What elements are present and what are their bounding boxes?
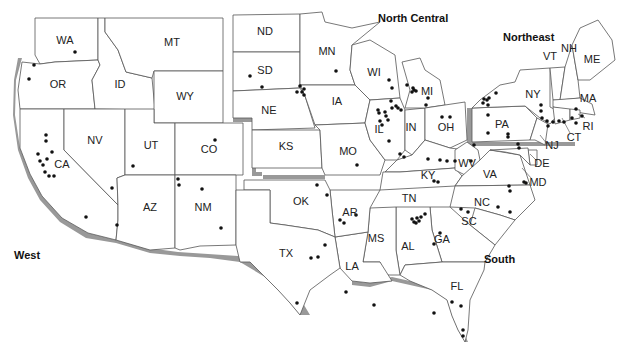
site-dot xyxy=(50,150,54,154)
site-dot xyxy=(423,212,427,216)
state-label-nc: NC xyxy=(474,196,490,208)
state-mi xyxy=(402,58,445,108)
site-dot xyxy=(295,90,299,94)
site-dot xyxy=(402,155,406,159)
site-dot xyxy=(219,226,223,230)
state-label-or: OR xyxy=(50,78,67,90)
state-label-ny: NY xyxy=(525,88,541,100)
site-dot xyxy=(448,115,452,119)
site-dot xyxy=(260,85,264,89)
site-dot xyxy=(334,69,338,73)
state-label-mn: MN xyxy=(318,45,335,57)
site-dot xyxy=(417,219,421,223)
site-dot xyxy=(387,139,391,143)
site-dot xyxy=(507,184,511,188)
site-dot xyxy=(383,110,387,114)
site-dot xyxy=(45,157,49,161)
state-label-va: VA xyxy=(483,168,498,180)
state-label-ut: UT xyxy=(144,139,159,151)
site-dot xyxy=(415,216,419,220)
state-label-il: IL xyxy=(374,123,383,135)
site-dot xyxy=(459,304,463,308)
site-dot xyxy=(450,300,454,304)
site-dot xyxy=(390,86,394,90)
state-label-ar: AR xyxy=(342,206,357,218)
state-label-ms: MS xyxy=(368,232,385,244)
site-dot xyxy=(115,223,119,227)
site-dot xyxy=(461,334,465,338)
state-ct xyxy=(553,107,570,124)
site-dot xyxy=(177,183,181,187)
region-label-south: South xyxy=(484,253,515,265)
region-label-north-central: North Central xyxy=(378,12,448,24)
site-dot xyxy=(461,328,465,332)
site-dot xyxy=(508,189,512,193)
state-label-mo: MO xyxy=(339,145,357,157)
state-label-nd: ND xyxy=(257,25,273,37)
us-region-map: WAORIDMTWYCANVUTCOAZNMNDSDNEKSMNIAMOWIIL… xyxy=(0,0,626,350)
site-dot xyxy=(84,215,88,219)
state-label-al: AL xyxy=(401,240,414,252)
site-dot xyxy=(342,221,346,225)
state-label-ga: GA xyxy=(434,233,451,245)
state-label-ri: RI xyxy=(583,120,594,132)
site-dot xyxy=(485,98,489,102)
state-label-ma: MA xyxy=(580,92,597,104)
site-dot xyxy=(372,303,376,307)
state-label-ky: KY xyxy=(421,169,436,181)
state-label-ok: OK xyxy=(293,195,310,207)
site-dot xyxy=(36,152,40,156)
site-dot xyxy=(396,106,400,110)
state-label-sc: SC xyxy=(461,215,476,227)
site-dot xyxy=(486,103,490,107)
site-dot xyxy=(309,256,313,260)
site-dot xyxy=(426,157,430,161)
state-label-wy: WY xyxy=(176,90,194,102)
site-dot xyxy=(110,186,114,190)
site-dot xyxy=(517,146,521,150)
state-label-tn: TN xyxy=(402,192,417,204)
state-label-ks: KS xyxy=(279,140,294,152)
site-dot xyxy=(494,91,498,95)
site-dot xyxy=(399,108,403,112)
state-label-ct: CT xyxy=(567,131,582,143)
site-dot xyxy=(540,116,544,120)
site-dot xyxy=(44,139,48,143)
site-dot xyxy=(524,181,528,185)
state-label-mi: MI xyxy=(421,85,433,97)
site-dot xyxy=(200,187,204,191)
state-label-oh: OH xyxy=(438,121,455,133)
site-dot xyxy=(551,120,555,124)
site-dot xyxy=(424,103,428,107)
state-label-id: ID xyxy=(115,78,126,90)
site-dot xyxy=(580,114,584,118)
site-dot xyxy=(508,210,512,214)
site-dot xyxy=(432,311,436,315)
site-dot xyxy=(52,174,56,178)
site-dot xyxy=(472,143,476,147)
state-label-in: IN xyxy=(406,121,417,133)
state-label-nm: NM xyxy=(194,201,211,213)
state-label-pa: PA xyxy=(495,118,510,130)
site-dot xyxy=(390,106,394,110)
site-dot xyxy=(43,170,47,174)
site-dot xyxy=(355,163,359,167)
state-label-wv: WV xyxy=(458,157,476,169)
site-dot xyxy=(574,107,578,111)
site-dot xyxy=(414,221,418,225)
site-dot xyxy=(131,164,135,168)
site-dot xyxy=(562,120,566,124)
site-dot xyxy=(344,290,348,294)
site-dot xyxy=(459,207,463,211)
site-dot xyxy=(295,301,299,305)
site-dot xyxy=(410,217,414,221)
site-dot xyxy=(405,83,409,87)
site-dot xyxy=(338,218,342,222)
region-label-northeast: Northeast xyxy=(503,31,555,43)
map-canvas: WAORIDMTWYCANVUTCOAZNMNDSDNEKSMNIAMOWIIL… xyxy=(0,0,626,350)
site-dot xyxy=(453,159,457,163)
state-label-vt: VT xyxy=(543,50,557,62)
site-dot xyxy=(410,90,414,94)
state-label-ia: IA xyxy=(332,95,343,107)
state-label-wa: WA xyxy=(56,34,74,46)
